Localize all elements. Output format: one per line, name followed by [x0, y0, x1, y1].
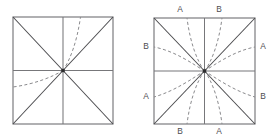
right-center-point	[203, 69, 206, 72]
right-label-right-lower: B	[260, 91, 266, 101]
left-dashed-curve-steep-upper-right	[63, 17, 81, 71]
right-dashed-curve-steep-upper-right	[205, 18, 223, 71]
right-dashed-curve-steep-upper-left	[187, 18, 205, 71]
right-dashed-curve-flat-lower-right	[205, 71, 256, 97]
right-dashed-curve-steep-lower-right	[205, 71, 223, 124]
right-label-top-left: A	[177, 4, 183, 14]
left-center-point	[61, 69, 64, 72]
two-square-diagram-figure: A B B A B A A B	[0, 0, 274, 139]
right-dashed-curve-flat-upper-left	[154, 47, 205, 71]
right-dashed-curve-flat-upper-right	[205, 47, 256, 71]
left-square-diagram	[13, 17, 113, 124]
right-label-bottom-right: A	[216, 126, 222, 136]
right-label-top-right: B	[216, 4, 222, 14]
right-label-left-upper: B	[143, 41, 149, 51]
right-dashed-curve-steep-lower-left	[187, 71, 205, 124]
right-label-left-lower: A	[143, 91, 149, 101]
right-dashed-curve-flat-lower-left	[154, 71, 205, 97]
right-label-bottom-left: B	[177, 126, 183, 136]
figure-root: A B B A B A A B	[0, 0, 274, 139]
right-square-diagram: A B B A B A A B	[143, 4, 266, 136]
right-label-right-upper: A	[260, 41, 266, 51]
